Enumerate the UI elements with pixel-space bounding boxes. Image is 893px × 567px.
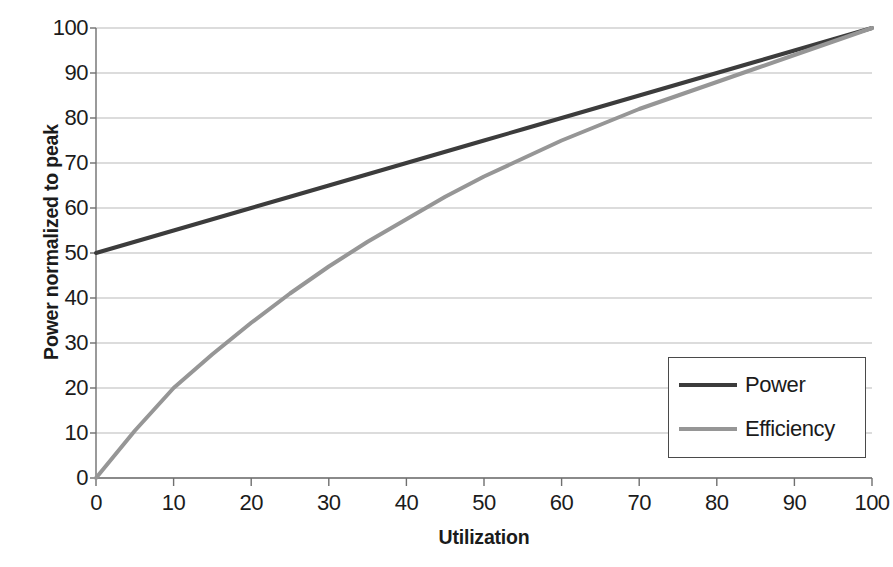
x-tick-label-40: 40 bbox=[366, 492, 446, 514]
x-tick-label-10: 10 bbox=[134, 492, 214, 514]
legend: Power Efficiency bbox=[668, 357, 866, 458]
legend-swatch-power bbox=[679, 383, 737, 387]
chart-container: 1009080706050403020100 01020304050607080… bbox=[0, 0, 893, 567]
legend-item-power: Power bbox=[679, 370, 805, 400]
x-tick-label-80: 80 bbox=[677, 492, 757, 514]
legend-label-efficiency: Efficiency bbox=[745, 418, 835, 440]
x-tick-label-60: 60 bbox=[522, 492, 602, 514]
legend-label-power: Power bbox=[745, 374, 805, 396]
plot-area bbox=[0, 0, 893, 567]
series-line-power bbox=[96, 28, 872, 253]
x-tick-label-100: 100 bbox=[832, 492, 893, 514]
x-tick-label-50: 50 bbox=[444, 492, 524, 514]
x-tick-label-90: 90 bbox=[754, 492, 834, 514]
x-tick-label-70: 70 bbox=[599, 492, 679, 514]
x-tick-label-0: 0 bbox=[56, 492, 136, 514]
x-axis-title: Utilization bbox=[96, 526, 872, 549]
x-tick-label-20: 20 bbox=[211, 492, 291, 514]
legend-swatch-efficiency bbox=[679, 427, 737, 431]
x-axis-tick-labels: 0102030405060708090100 bbox=[0, 492, 893, 522]
x-tick-label-30: 30 bbox=[289, 492, 369, 514]
legend-item-efficiency: Efficiency bbox=[679, 414, 835, 444]
y-axis-title: Power normalized to peak bbox=[34, 0, 68, 492]
x-axis-ticks bbox=[96, 478, 872, 486]
